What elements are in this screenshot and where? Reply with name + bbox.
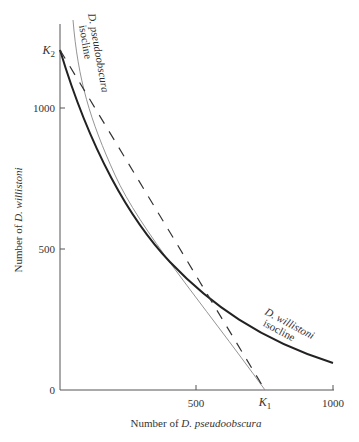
y-axis-label: Number of D. willistoni: [12, 167, 24, 272]
x-tick-label-500: 500: [188, 397, 205, 409]
y-tick-label-1000: 1000: [33, 102, 56, 114]
y-tick-label-0: 0: [50, 384, 56, 396]
x-tick-label-1000: 1000: [322, 397, 345, 409]
y-tick-label-500: 500: [39, 243, 56, 255]
x-ticks: 500 1000 K1: [188, 385, 345, 411]
willistoni-isocline-label: D. willistoni isocline: [257, 305, 317, 351]
isocline-chart: 1000 500 0 K2 500 1000 K1 Number of D. p…: [0, 0, 359, 442]
x-tick-label-k1: K1: [258, 395, 272, 411]
x-axis-label: Number of D. pseudoobscura: [131, 417, 262, 429]
linear-isocline-dashed: [60, 50, 265, 390]
y-tick-label-k2: K2: [41, 43, 55, 59]
willistoni-isocline: [60, 50, 333, 363]
